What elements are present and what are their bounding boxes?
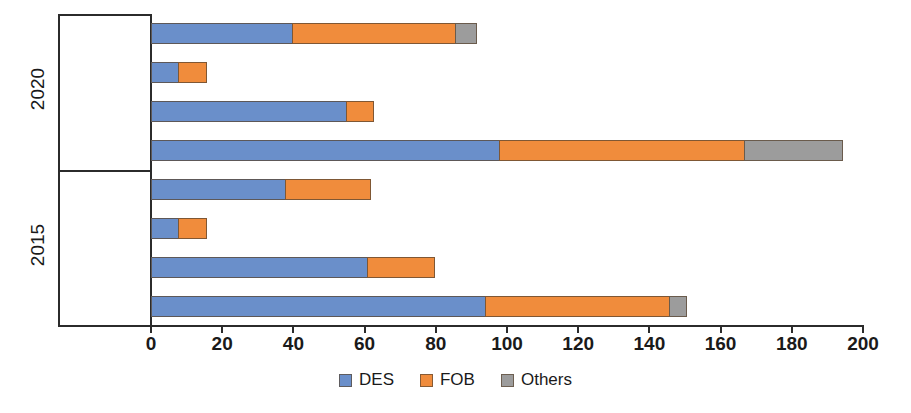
legend-item[interactable]: FOB (420, 370, 475, 390)
legend-item[interactable]: Others (501, 370, 572, 390)
chart-legend: DESFOBOthers (0, 370, 911, 390)
x-tick (862, 325, 864, 333)
stacked-bar (151, 23, 477, 44)
legend-item[interactable]: DES (339, 370, 394, 390)
stacked-bar (151, 218, 207, 239)
x-tick (577, 325, 579, 333)
stacked-bar (151, 101, 374, 122)
x-tick-label: 140 (619, 333, 679, 355)
stacked-bar (151, 296, 687, 317)
group-label-2015: 2015 (27, 205, 49, 285)
x-tick-label: 100 (477, 333, 537, 355)
bar-segment-fob (178, 62, 206, 83)
legend-swatch-icon (501, 374, 514, 387)
stacked-bar (151, 179, 371, 200)
bar-row: Asia (151, 287, 863, 326)
x-tick (292, 325, 294, 333)
group-label-2020: 2020 (27, 49, 49, 129)
x-tick-label: 160 (691, 333, 751, 355)
x-tick (791, 325, 793, 333)
group-spine-2015 (58, 170, 60, 327)
bar-segment-fob (367, 257, 435, 278)
x-tick-label: 120 (548, 333, 608, 355)
legend-label: DES (359, 370, 394, 390)
x-tick-label: 180 (762, 333, 822, 355)
bar-segment-fob (346, 101, 374, 122)
group-spine-2020 (58, 14, 60, 172)
bar-segment-fob (178, 218, 206, 239)
x-tick-label: 40 (263, 333, 323, 355)
x-tick (435, 325, 437, 333)
x-tick (221, 325, 223, 333)
bar-segment-others (669, 296, 687, 317)
bar-row: Others (151, 53, 863, 92)
bar-row: Europe (151, 248, 863, 287)
bar-segment-des (151, 101, 347, 122)
x-tick (506, 325, 508, 333)
x-tick (150, 325, 152, 333)
stacked-bar (151, 62, 207, 83)
stacked-bar (151, 257, 435, 278)
bar-segment-des (151, 179, 286, 200)
x-tick (648, 325, 650, 333)
stacked-bar (151, 140, 843, 161)
bar-row: Portfolio (151, 14, 863, 53)
bar-segment-des (151, 218, 179, 239)
bar-row: Europe (151, 92, 863, 131)
bar-segment-others (744, 140, 844, 161)
bar-segment-des (151, 62, 179, 83)
bar-segment-des (151, 140, 500, 161)
x-tick (720, 325, 722, 333)
plot-area: PortfolioOthersEuropeAsiaPortfolioOthers… (151, 14, 863, 326)
x-tick-label: 200 (833, 333, 893, 355)
bar-segment-des (151, 257, 368, 278)
legend-label: FOB (440, 370, 475, 390)
x-tick-label: 60 (335, 333, 395, 355)
bar-segment-des (151, 23, 293, 44)
group-separator-bottom (58, 325, 151, 327)
x-tick-label: 0 (121, 333, 181, 355)
bar-segment-des (151, 296, 486, 317)
bar-segment-fob (285, 179, 370, 200)
x-tick-label: 80 (406, 333, 466, 355)
bar-row: Others (151, 209, 863, 248)
stacked-bar-chart: 2020 2015 PortfolioOthersEuropeAsiaPortf… (0, 0, 911, 413)
legend-label: Others (521, 370, 572, 390)
legend-swatch-icon (420, 374, 433, 387)
x-tick (364, 325, 366, 333)
group-separator-middle (58, 170, 151, 172)
legend-swatch-icon (339, 374, 352, 387)
bar-segment-others (455, 23, 476, 44)
bar-segment-fob (292, 23, 456, 44)
x-tick-label: 20 (192, 333, 252, 355)
bar-row: Portfolio (151, 170, 863, 209)
bar-segment-fob (485, 296, 670, 317)
bar-segment-fob (499, 140, 745, 161)
group-separator-top (58, 14, 151, 16)
bar-row: Asia (151, 131, 863, 170)
